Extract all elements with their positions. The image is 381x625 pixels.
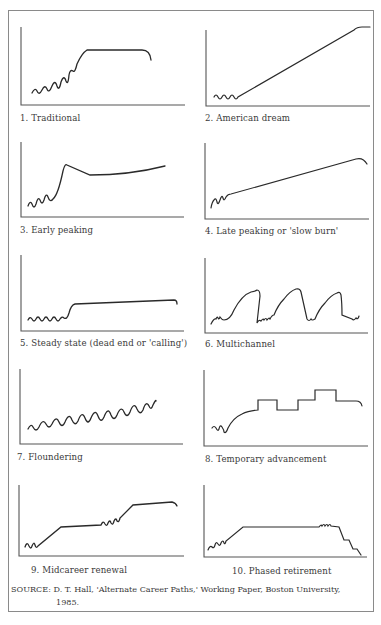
phased-retirement-curve-chart xyxy=(0,0,381,625)
axes xyxy=(204,485,367,557)
source-year: 1985. xyxy=(56,597,79,607)
career-curve xyxy=(208,525,361,556)
source-citation: SOURCE: D. T. Hall, 'Alternate Career Pa… xyxy=(11,584,340,594)
panel-caption: 10. Phased retirement xyxy=(232,566,331,576)
